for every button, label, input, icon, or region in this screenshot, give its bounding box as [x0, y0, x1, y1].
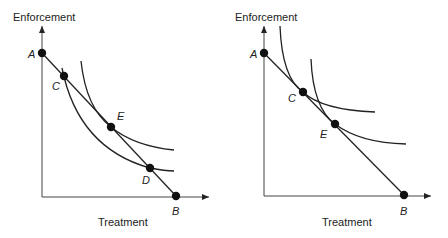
diagram-canvas: Enforcement Treatment A C E D B Enforcem… — [0, 0, 448, 238]
left-label-c: C — [52, 80, 60, 92]
right-point-b — [400, 191, 408, 199]
left-label-e: E — [117, 110, 125, 122]
left-point-b — [172, 192, 180, 200]
left-x-axis-label: Treatment — [98, 216, 148, 228]
right-label-e: E — [320, 128, 328, 140]
left-point-e — [107, 123, 115, 131]
left-point-d — [146, 164, 154, 172]
left-point-c — [60, 72, 68, 80]
left-label-d: D — [142, 174, 150, 186]
left-label-a: A — [27, 48, 35, 60]
right-x-axis-label: Treatment — [322, 216, 372, 228]
left-label-b: B — [172, 205, 179, 217]
right-point-e — [331, 120, 339, 128]
right-y-axis-label: Enforcement — [235, 11, 297, 23]
right-label-a: A — [249, 48, 257, 60]
left-y-axis-label: Enforcement — [13, 11, 75, 23]
right-label-b: B — [400, 205, 407, 217]
right-point-c — [299, 88, 307, 96]
left-point-a — [38, 49, 46, 57]
left-panel: Enforcement Treatment A C E D B — [13, 11, 209, 228]
right-panel: Enforcement Treatment A C E B — [235, 11, 431, 228]
right-point-a — [260, 49, 268, 57]
right-label-c: C — [288, 92, 296, 104]
